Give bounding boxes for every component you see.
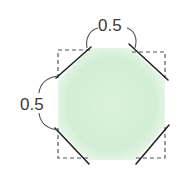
top-dimension-label: 0.5 xyxy=(98,16,122,35)
octagon-diagram: 0.5 0.5 xyxy=(0,0,183,179)
left-dimension-label: 0.5 xyxy=(20,95,44,114)
octagon-fill xyxy=(58,48,165,160)
